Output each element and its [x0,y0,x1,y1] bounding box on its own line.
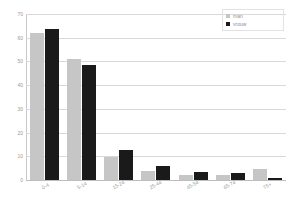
x-axis-tick-labels: 0-45-1415-2425-4445-5465-7475+ [26,181,286,214]
bar-group [63,14,100,180]
legend-label-vrouw: vrouw [233,22,246,27]
bar-group [249,14,286,180]
x-tick-label: 45-54 [185,179,199,190]
bar-group [26,14,63,180]
x-tick-label: 25-44 [148,179,162,190]
y-tick-label: 0 [1,178,23,183]
x-tick-label: 75+ [262,181,272,190]
bar-group [100,14,137,180]
bar-vrouw [45,29,59,180]
bar-chart: 706050403020100 0-45-1415-2425-4445-5465… [0,0,298,214]
bar-group [175,14,212,180]
x-tick-cell: 15-24 [100,181,137,214]
chart-legend: man vrouw [222,9,284,31]
x-tick-cell: 0-4 [26,181,63,214]
legend-item-man: man [226,12,280,20]
y-tick-label: 50 [1,59,23,64]
x-tick-cell: 65-74 [212,181,249,214]
y-tick-label: 40 [1,83,23,88]
bar-man [141,171,155,180]
bar-man [253,169,267,180]
x-tick-cell: 5-14 [63,181,100,214]
bar-vrouw [156,166,170,180]
legend-item-vrouw: vrouw [226,20,280,28]
bar-group [137,14,174,180]
x-tick-label: 65-74 [223,179,237,190]
bar-groups [26,14,286,180]
x-tick-cell: 45-54 [175,181,212,214]
x-tick-cell: 25-44 [137,181,174,214]
vrouw-swatch-icon [226,22,230,26]
y-tick-label: 20 [1,131,23,136]
bar-vrouw [268,178,282,180]
bar-vrouw [119,150,133,180]
man-swatch-icon [226,14,230,18]
y-tick-label: 70 [1,12,23,17]
bar-man [104,157,118,180]
bar-man [67,59,81,180]
bar-man [216,175,230,180]
y-tick-label: 30 [1,107,23,112]
x-tick-label: 5-14 [76,180,88,190]
x-tick-label: 0-4 [40,182,49,191]
legend-label-man: man [233,14,243,19]
y-tick-label: 60 [1,36,23,41]
x-tick-label: 15-24 [111,179,125,190]
bar-man [179,175,193,180]
bar-group [212,14,249,180]
y-axis-tick-labels: 706050403020100 [0,14,23,180]
bar-man [30,33,44,180]
y-tick-label: 10 [1,154,23,159]
bar-vrouw [82,65,96,180]
plot-area [26,14,286,180]
x-tick-cell: 75+ [249,181,286,214]
